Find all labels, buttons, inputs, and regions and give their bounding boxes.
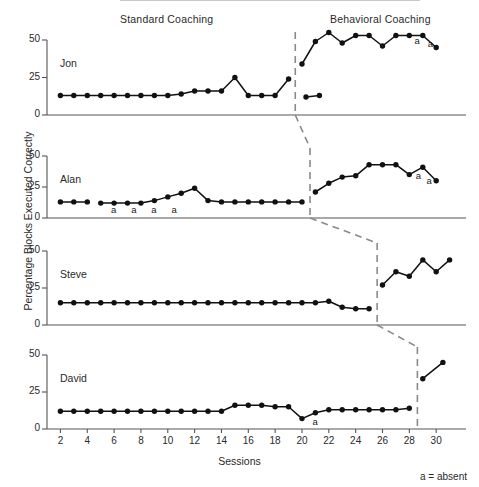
chart-figure: Standard Coaching Behavioral Coaching Pe… — [0, 0, 479, 487]
x-tick-label: 10 — [158, 435, 178, 446]
x-tick-label: 30 — [426, 435, 446, 446]
x-tick-label: 4 — [77, 435, 97, 446]
x-tick-label: 22 — [319, 435, 339, 446]
x-tick-label: 2 — [50, 435, 70, 446]
x-tick-label: 16 — [238, 435, 258, 446]
x-tick-label: 26 — [373, 435, 393, 446]
x-tick-label: 8 — [131, 435, 151, 446]
x-axis — [0, 0, 479, 487]
x-tick-label: 6 — [104, 435, 124, 446]
x-tick-label: 28 — [399, 435, 419, 446]
x-tick-label: 20 — [292, 435, 312, 446]
x-tick-label: 12 — [185, 435, 205, 446]
x-tick-label: 24 — [346, 435, 366, 446]
x-tick-label: 18 — [265, 435, 285, 446]
x-tick-label: 14 — [211, 435, 231, 446]
